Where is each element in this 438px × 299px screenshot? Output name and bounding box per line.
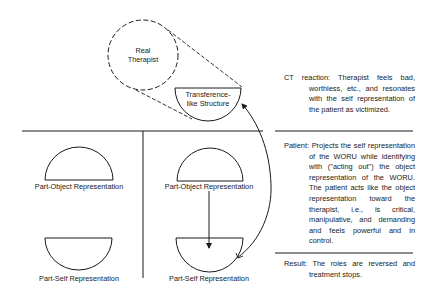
transference-structure-node: Transference- like Structure [175, 88, 241, 121]
projection-line-upper [168, 30, 242, 87]
ct-reaction-note: CT reaction: Therapist feels bad, worthl… [275, 73, 415, 115]
transference-label-2: like Structure [187, 99, 230, 108]
left-object-semicircle [45, 147, 113, 180]
result-text: The roles are reversed and treatment sto… [309, 259, 415, 279]
right-object-semicircle [177, 148, 243, 181]
real-therapist-label-2: Therapist [128, 55, 158, 64]
left-self-semicircle [45, 238, 112, 270]
left-part-object-node: Part-Object Representation [35, 147, 123, 191]
left-self-label: Part-Self Representation [39, 274, 119, 283]
ct-reaction-heading: CT reaction: [284, 73, 330, 82]
patient-note: Patient: Projects the self representatio… [275, 141, 415, 247]
right-part-object-node: Part-Object Representation [165, 148, 253, 191]
real-therapist-node: Real Therapist [108, 20, 178, 90]
left-object-label: Part-Object Representation [35, 182, 123, 191]
right-object-label: Part-Object Representation [165, 182, 253, 191]
patient-heading: Patient: [284, 141, 309, 150]
result-heading: Result: [284, 259, 307, 268]
left-part-self-node: Part-Self Representation [39, 238, 119, 283]
result-note: Result: The roles are reversed and treat… [275, 259, 415, 280]
right-self-label: Part-Self Representation [169, 274, 249, 283]
transference-label-1: Transference- [185, 90, 231, 99]
real-therapist-label-1: Real [135, 46, 150, 55]
patient-text: Projects the self representation of the … [309, 141, 415, 245]
